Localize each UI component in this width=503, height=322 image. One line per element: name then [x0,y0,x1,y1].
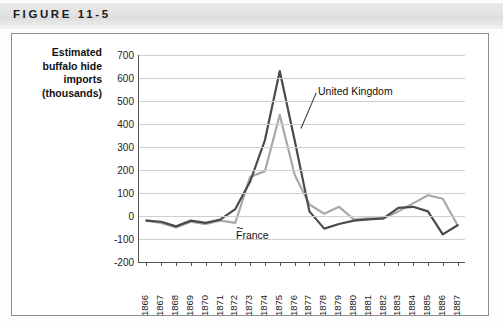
x-axis-tick-label: 1874 [258,295,269,316]
gridline [139,147,465,148]
x-axis-tick-label: 1885 [421,295,432,316]
y-axis-tick-label: -200 [114,257,134,268]
x-axis-tick-label: 1880 [347,295,358,316]
gridline [139,101,465,102]
y-axis-tick-label: 0 [128,211,134,222]
y-axis-tick-label: 400 [117,119,134,130]
gridline [139,216,465,217]
x-axis-tick-label: 1868 [169,295,180,316]
x-axis-tick-label: 1884 [406,295,417,316]
x-axis-tick-label: 1882 [377,295,388,316]
y-axis-tick-labels: 7006005004003002001000-100-200 [100,33,134,283]
y-axis-title-line-3: imports [16,73,102,87]
x-axis-tick-label: 1876 [288,295,299,316]
x-axis-tick-label: 1873 [243,295,254,316]
x-axis-tick-label: 1869 [184,295,195,316]
x-axis-tick-label: 1867 [154,295,165,316]
gridline [139,170,465,171]
x-axis-tick-label: 1870 [199,295,210,316]
y-axis-title-line-4: (thousands) [16,87,102,101]
plot-area [139,55,465,262]
gridline [139,78,465,79]
y-axis-tick-label: -100 [114,234,134,245]
x-axis-tick-label: 1877 [302,295,313,316]
series-line-united-kingdom [146,71,457,234]
x-axis-tick-label: 1879 [332,295,343,316]
gridline [139,239,465,240]
annotation-united-kingdom: United Kingdom [318,85,393,97]
y-axis-tick-label: 700 [117,50,134,61]
gridline [139,193,465,194]
figure-label: FIGURE 11-5 [13,8,111,20]
y-axis-title-line-1: Estimated [16,46,102,60]
y-axis-tick-label: 600 [117,73,134,84]
gridline [139,55,465,56]
x-axis-tick-label: 1872 [228,295,239,316]
y-axis-tick-label: 300 [117,142,134,153]
series-lines [139,55,465,262]
x-axis-tick-label: 1883 [391,295,402,316]
x-axis-tick-label: 1866 [139,295,150,316]
figure-container: FIGURE 11-5 Estimated buffalo hide impor… [0,0,503,322]
y-axis-tick-label: 200 [117,165,134,176]
x-axis-tick-label: 1887 [451,295,462,316]
y-axis-tick-label: 500 [117,96,134,107]
x-axis-tick-label: 1871 [214,295,225,316]
x-axis-tick-label: 1881 [362,295,373,316]
gridline [139,262,465,263]
x-axis-tick-label: 1886 [436,295,447,316]
y-axis-title: Estimated buffalo hide imports (thousand… [16,46,102,100]
annotation-france: France [236,229,269,241]
x-axis-tick-labels: 1866186718681869187018711872187318741875… [139,264,465,316]
y-axis-title-line-2: buffalo hide [16,60,102,74]
x-axis-tick-label: 1878 [317,295,328,316]
y-axis-tick-label: 100 [117,188,134,199]
x-axis-tick-label: 1875 [273,295,284,316]
